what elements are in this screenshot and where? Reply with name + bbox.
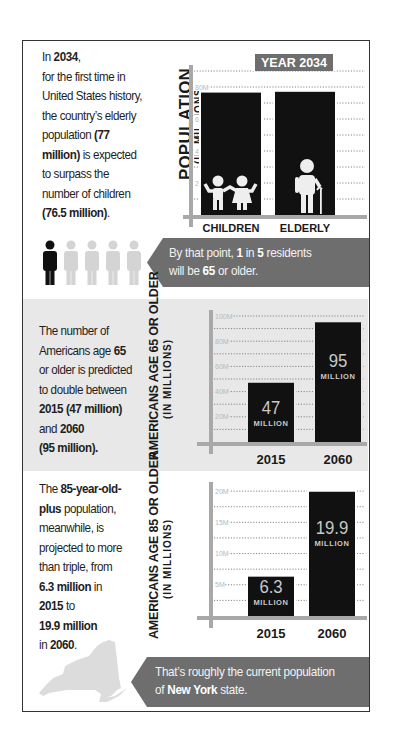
y-tick-label: 20M bbox=[215, 413, 229, 420]
bar-unit-label: MILLION bbox=[314, 539, 349, 548]
y-axis bbox=[189, 65, 193, 227]
emphasis-text: 2015 (47 million) bbox=[39, 401, 122, 416]
text-run: and bbox=[39, 421, 60, 436]
section3-text: The 85-year-old-plus population,meanwhil… bbox=[39, 479, 159, 655]
bar-2060 bbox=[315, 322, 361, 442]
text-run: to surpass the bbox=[42, 166, 109, 181]
y-tick-label: 20M bbox=[215, 488, 229, 495]
text-run: meanwhile, is bbox=[39, 520, 104, 535]
x-category-label: 2060 bbox=[318, 626, 347, 641]
emphasis-text: plus bbox=[39, 501, 61, 516]
bar-unit-label: MILLION bbox=[320, 372, 355, 381]
x-category-label: CHILDREN bbox=[203, 222, 260, 234]
people-ratio-graphic bbox=[35, 239, 155, 289]
emphasis-text: 6.3 million bbox=[39, 579, 91, 594]
y-tick-label: 80M bbox=[195, 84, 209, 91]
section2-text: The number ofAmericans age 65or older is… bbox=[39, 321, 159, 458]
text-run: The bbox=[39, 481, 61, 496]
person-icon bbox=[64, 241, 78, 286]
text-run: That’s roughly the current population bbox=[155, 664, 335, 679]
y-tick-label: 10M bbox=[215, 550, 229, 557]
section-65-plus: The number ofAmericans age 65or older is… bbox=[23, 299, 368, 471]
bar-unit-label: MILLION bbox=[253, 419, 288, 428]
text-run: , bbox=[78, 49, 81, 64]
emphasis-text: (76.5 million) bbox=[42, 205, 107, 220]
chart3-ylabel-sub: (IN MILLIONS) bbox=[162, 479, 173, 639]
chart2-y-axis-label: AMERICANS AGE 65 OR OLDER (IN MILLIONS) bbox=[147, 299, 173, 459]
emphasis-text: 2015 bbox=[39, 598, 63, 613]
text-run: By that point, bbox=[169, 245, 237, 260]
text-run: in bbox=[91, 579, 102, 594]
chart2-ylabel-sub: (IN MILLIONS) bbox=[162, 299, 173, 459]
emphasis-text: 2060 bbox=[60, 421, 84, 436]
text-run: projected to more bbox=[39, 540, 122, 555]
chart-65-plus: 20M40M60M80M100M201547MILLION206095MILLI… bbox=[183, 299, 368, 471]
year-badge-label: YEAR 2034 bbox=[261, 56, 327, 70]
x-category-label: 2015 bbox=[257, 452, 286, 467]
y-tick-label: 15M bbox=[215, 519, 229, 526]
new-york-state-map-icon bbox=[37, 638, 127, 703]
bar-2060 bbox=[309, 492, 355, 616]
x-category-label: 2060 bbox=[324, 452, 353, 467]
text-run: the country’s elderly bbox=[42, 108, 136, 123]
text-run: Americans age bbox=[39, 343, 114, 358]
banner-1-text: By that point, 1 in 5 residentswill be 6… bbox=[169, 244, 367, 280]
y-tick-label: 80M bbox=[215, 338, 229, 345]
text-run: residents bbox=[264, 245, 312, 260]
bar-value-label: 95 bbox=[329, 350, 348, 371]
text-run: . bbox=[107, 205, 110, 220]
bar-children bbox=[201, 93, 261, 215]
x-category-label: ELDERLY bbox=[280, 222, 331, 234]
x-axis bbox=[183, 215, 367, 219]
y-tick-label: 5M bbox=[215, 581, 225, 588]
text-run: number of children bbox=[42, 186, 130, 201]
chart-2034-population: 20M40M60M80MCHILDRENELDERLYYEAR 2034 bbox=[183, 41, 369, 241]
y-tick-label: 100M bbox=[215, 313, 233, 320]
emphasis-text: New York bbox=[167, 682, 217, 697]
chart2-ylabel-main: AMERICANS AGE 65 OR OLDER bbox=[147, 299, 161, 459]
text-run: In bbox=[42, 49, 54, 64]
infographic-frame: In 2034,for the first time inUnited Stat… bbox=[22, 40, 370, 712]
bar-unit-label: MILLION bbox=[253, 598, 288, 607]
text-run: than triple, from bbox=[39, 559, 112, 574]
emphasis-text: 65 bbox=[203, 263, 215, 278]
emphasis-text: 85-year-old- bbox=[61, 481, 122, 496]
text-run: population bbox=[42, 127, 94, 142]
person-icon bbox=[106, 241, 120, 286]
emphasis-text: (95 million). bbox=[39, 440, 98, 455]
text-run: United States history, bbox=[42, 88, 142, 103]
banner-2-text: That’s roughly the current populationof … bbox=[155, 663, 362, 699]
emphasis-text: 2034 bbox=[54, 49, 78, 64]
text-run: The number of bbox=[39, 323, 109, 338]
x-category-label: 2015 bbox=[257, 626, 286, 641]
emphasis-text: 65 bbox=[114, 343, 126, 358]
chart3-ylabel-main: AMERICANS AGE 85 OR OLDER bbox=[147, 479, 161, 639]
bar-value-label: 19.9 bbox=[316, 517, 349, 538]
person-icon bbox=[127, 241, 141, 286]
emphasis-text: 19.9 million bbox=[39, 618, 97, 633]
y-axis bbox=[209, 482, 213, 628]
text-run: of bbox=[155, 682, 167, 697]
emphasis-text: (77 bbox=[94, 127, 109, 142]
chart3-y-axis-label: AMERICANS AGE 85 OR OLDER (IN MILLIONS) bbox=[147, 479, 173, 639]
text-run: in bbox=[243, 245, 258, 260]
bar-value-label: 47 bbox=[262, 397, 281, 418]
bar-value-label: 6.3 bbox=[259, 576, 282, 597]
person-icon bbox=[85, 241, 99, 286]
y-tick-label: 40M bbox=[215, 388, 229, 395]
text-run: to bbox=[63, 598, 75, 613]
text-run: population, bbox=[61, 501, 116, 516]
x-axis bbox=[197, 442, 367, 446]
chart-85-plus: 5M10M15M20M20156.3MILLION206019.9MILLION bbox=[183, 471, 368, 643]
text-run: state. bbox=[217, 682, 247, 697]
y-axis bbox=[209, 310, 213, 454]
y-tick-label: 60M bbox=[215, 363, 229, 370]
text-run: is expected bbox=[80, 147, 137, 162]
text-run: for the first time in bbox=[42, 69, 125, 84]
x-axis bbox=[197, 616, 367, 620]
person-icon-highlighted bbox=[43, 241, 57, 286]
text-run: or older is predicted bbox=[39, 362, 132, 377]
text-run: will be bbox=[169, 263, 203, 278]
text-run: to double between bbox=[39, 382, 127, 397]
emphasis-text: million) bbox=[42, 147, 80, 162]
